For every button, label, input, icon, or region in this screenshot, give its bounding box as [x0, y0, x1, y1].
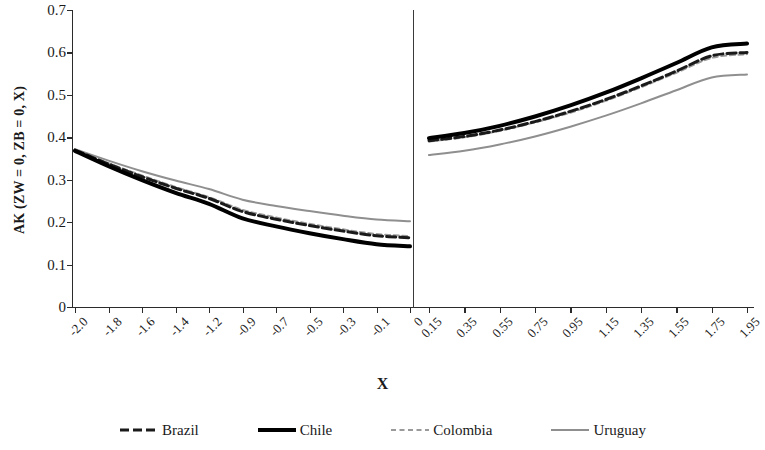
x-tick-label: -0.5: [300, 314, 326, 340]
y-tick-mark: [67, 52, 73, 53]
y-tick-label: 0.6: [47, 44, 66, 61]
x-tick-mark: [429, 307, 430, 313]
x-tick-label: 0.95: [559, 314, 586, 341]
x-tick-label: 1.75: [701, 314, 728, 341]
series-line-chile: [429, 44, 747, 139]
x-tick-mark: [310, 307, 311, 313]
x-tick-mark: [570, 307, 571, 313]
y-tick-mark: [67, 222, 73, 223]
x-tick-label: -0.7: [266, 314, 292, 340]
legend-swatch-colombia: [390, 423, 430, 437]
y-tick-label: 0.4: [47, 129, 66, 146]
x-tick-label: -0.9: [233, 314, 259, 340]
x-tick-label: -1.4: [166, 314, 192, 340]
x-tick-label: 1.95: [736, 314, 763, 341]
x-tick-label: -2.0: [65, 314, 91, 340]
x-tick-mark: [464, 307, 465, 313]
x-tick-mark: [500, 307, 501, 313]
x-tick-mark: [142, 307, 143, 313]
legend-swatch-brazil: [119, 423, 159, 437]
x-tick-label: 0.15: [418, 314, 445, 341]
x-tick-mark: [535, 307, 536, 313]
legend-item-colombia: Colombia: [390, 423, 492, 438]
x-tick-label: 0.35: [453, 314, 480, 341]
y-tick-label: 0.1: [47, 256, 66, 273]
y-tick-label: 0: [59, 299, 67, 316]
y-tick-mark: [67, 307, 73, 308]
x-axis-title: X: [0, 375, 765, 393]
legend-item-uruguay: Uruguay: [550, 423, 646, 438]
x-tick-mark: [75, 307, 76, 313]
x-tick-mark: [747, 307, 748, 313]
x-tick-label: -0.1: [367, 314, 393, 340]
x-tick-mark: [606, 307, 607, 313]
chart-figure: AK (ZW = 0, ZB = 0, X) 00.10.20.30.40.50…: [0, 0, 765, 450]
x-tick-mark: [410, 307, 411, 313]
y-tick-mark: [67, 137, 73, 138]
legend-item-chile: Chile: [257, 423, 333, 438]
plot-area: [73, 10, 753, 307]
y-tick-label: 0.5: [47, 86, 66, 103]
x-tick-mark: [676, 307, 677, 313]
x-tick-mark: [243, 307, 244, 313]
x-tick-mark: [377, 307, 378, 313]
x-tick-label: 1.55: [665, 314, 692, 341]
x-tick-mark: [712, 307, 713, 313]
series-curves: [73, 10, 753, 307]
x-tick-label: -1.2: [199, 314, 225, 340]
y-tick-label: 0.3: [47, 171, 66, 188]
x-tick-label: 0.75: [524, 314, 551, 341]
x-tick-mark: [109, 307, 110, 313]
chart-legend: BrazilChileColombiaUruguay: [0, 415, 765, 445]
legend-label: Colombia: [433, 423, 492, 438]
y-tick-mark: [67, 95, 73, 96]
legend-swatch-chile: [257, 423, 297, 437]
x-tick-label: 1.15: [595, 314, 622, 341]
x-tick-label: -1.8: [99, 314, 125, 340]
y-tick-mark: [67, 265, 73, 266]
legend-swatch-uruguay: [550, 423, 590, 437]
series-line-brazil: [75, 150, 410, 238]
x-tick-mark: [641, 307, 642, 313]
x-tick-mark: [343, 307, 344, 313]
x-tick-label: 0.55: [489, 314, 516, 341]
y-axis-title: AK (ZW = 0, ZB = 0, X): [12, 45, 32, 275]
x-tick-mark: [176, 307, 177, 313]
series-line-uruguay: [429, 74, 747, 155]
y-axis-tick-labels: 00.10.20.30.40.50.60.7: [30, 0, 66, 307]
y-tick-mark: [67, 180, 73, 181]
y-tick-label: 0.7: [47, 2, 66, 19]
y-tick-label: 0.2: [47, 214, 66, 231]
x-tick-label: 1.35: [630, 314, 657, 341]
legend-label: Chile: [300, 423, 333, 438]
x-tick-label: -1.6: [132, 314, 158, 340]
x-tick-mark: [276, 307, 277, 313]
legend-label: Uruguay: [593, 423, 646, 438]
x-tick-mark: [209, 307, 210, 313]
x-tick-label: -0.3: [333, 314, 359, 340]
legend-label: Brazil: [162, 423, 199, 438]
legend-item-brazil: Brazil: [119, 423, 199, 438]
series-line-colombia: [75, 150, 410, 237]
series-line-brazil: [429, 52, 747, 140]
y-tick-mark: [67, 10, 73, 11]
